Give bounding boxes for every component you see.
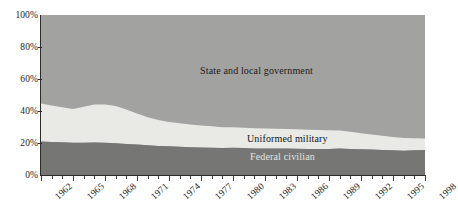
x-axis-tick-mark-major xyxy=(201,176,202,181)
x-axis-tick-label: 1983 xyxy=(277,181,298,201)
y-axis-tick-label: 60% xyxy=(2,74,38,84)
y-axis-tick-label: 20% xyxy=(2,138,38,148)
x-axis-tick-label: 1971 xyxy=(149,181,170,201)
area-series-svg xyxy=(41,15,425,175)
x-axis-tick-mark-minor xyxy=(158,176,159,179)
x-axis-tick-label: 1962 xyxy=(53,181,74,201)
plot-area xyxy=(41,15,425,175)
x-axis-tick-mark-minor xyxy=(52,176,53,179)
x-axis-tick-mark-minor xyxy=(404,176,405,179)
x-axis-tick-mark-major xyxy=(41,176,42,181)
x-axis-tick-label: 1965 xyxy=(85,181,106,201)
x-axis-tick-mark-minor xyxy=(62,176,63,179)
x-axis-tick-label: 1974 xyxy=(181,181,202,201)
x-axis-tick-mark-major xyxy=(137,176,138,181)
y-axis-tick-mark xyxy=(38,143,42,144)
x-axis-tick-label: 1992 xyxy=(373,181,394,201)
y-axis-tick-label: 0% xyxy=(2,170,38,180)
x-axis-tick-mark-major xyxy=(297,176,298,181)
x-axis-tick-mark-minor xyxy=(414,176,415,179)
x-axis-tick-mark-major xyxy=(265,176,266,181)
x-axis-tick-mark-major xyxy=(73,176,74,181)
x-axis-tick-label: 1980 xyxy=(245,181,266,201)
x-axis-tick-mark-minor xyxy=(180,176,181,179)
y-axis-tick-label: 80% xyxy=(2,42,38,52)
y-axis-labels: 100%80%60%40%20%0% xyxy=(0,0,38,218)
y-axis-tick-mark xyxy=(38,47,42,48)
x-axis-tick-mark-minor xyxy=(340,176,341,179)
x-axis-tick-mark-minor xyxy=(318,176,319,179)
x-axis-tick-mark-minor xyxy=(116,176,117,179)
x-axis-tick-mark-major xyxy=(425,176,426,181)
x-axis-tick-mark-major xyxy=(361,176,362,181)
series-label-state-and-local-government: State and local government xyxy=(200,65,313,76)
x-axis-tick-label: 1986 xyxy=(309,181,330,201)
x-axis-tick-mark-minor xyxy=(148,176,149,179)
series-label-federal-civilian: Federal civilian xyxy=(250,151,315,162)
x-axis-tick-mark-minor xyxy=(254,176,255,179)
y-axis-tick-label: 100% xyxy=(2,10,38,20)
x-axis-tick-mark-minor xyxy=(222,176,223,179)
x-axis-tick-mark-major xyxy=(329,176,330,181)
x-axis-tick-mark-minor xyxy=(350,176,351,179)
x-axis-tick-label: 1995 xyxy=(405,181,426,201)
x-axis-tick-mark-major xyxy=(105,176,106,181)
x-axis-tick-label: 1968 xyxy=(117,181,138,201)
x-axis-tick-mark-minor xyxy=(244,176,245,179)
x-axis-tick-mark-minor xyxy=(84,176,85,179)
x-axis-tick-mark-minor xyxy=(126,176,127,179)
y-axis-tick-label: 40% xyxy=(2,106,38,116)
x-axis-tick-label: 1977 xyxy=(213,181,234,201)
x-axis-tick-mark-minor xyxy=(212,176,213,179)
x-axis-tick-mark-minor xyxy=(276,176,277,179)
x-axis-tick-mark-minor xyxy=(382,176,383,179)
y-axis-line xyxy=(40,15,41,176)
x-axis-tick-mark-major xyxy=(393,176,394,181)
x-axis-tick-mark-major xyxy=(233,176,234,181)
x-axis-tick-mark-minor xyxy=(94,176,95,179)
y-axis-tick-mark xyxy=(38,79,42,80)
x-axis-tick-label: 1989 xyxy=(341,181,362,201)
y-axis-tick-mark xyxy=(38,111,42,112)
x-axis-tick-mark-minor xyxy=(190,176,191,179)
x-axis-tick-mark-minor xyxy=(286,176,287,179)
x-axis-tick-label: 1998 xyxy=(437,181,458,201)
series-label-uniformed-military: Uniformed military xyxy=(247,133,328,144)
x-axis-tick-mark-minor xyxy=(372,176,373,179)
x-axis-tick-mark-major xyxy=(169,176,170,181)
x-axis-tick-mark-minor xyxy=(308,176,309,179)
